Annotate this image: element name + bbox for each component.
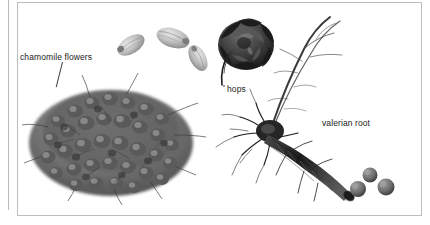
label-hops: hops bbox=[227, 84, 246, 94]
specimen-photograph bbox=[18, 3, 421, 215]
page-left-rule bbox=[8, 0, 9, 210]
figure-plate bbox=[17, 2, 422, 216]
label-chamomile-flowers: chamomile flowers bbox=[20, 52, 92, 62]
label-valerian-root: valerian root bbox=[322, 118, 370, 128]
botanical-figure: chamomile flowers hops valerian root bbox=[0, 0, 430, 225]
